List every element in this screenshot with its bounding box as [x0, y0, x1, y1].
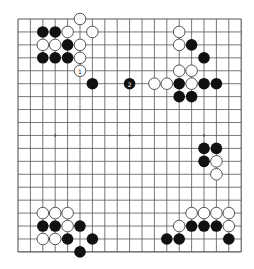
white-stone[interactable] [211, 168, 223, 180]
white-stone[interactable] [223, 220, 235, 232]
white-stone[interactable] [173, 26, 185, 38]
black-stone[interactable] [198, 156, 210, 168]
white-stone[interactable] [211, 156, 223, 168]
black-stone-disc [186, 220, 198, 232]
black-stone[interactable] [62, 233, 74, 245]
black-stone[interactable] [198, 220, 210, 232]
white-stone[interactable] [211, 207, 223, 219]
black-stone[interactable] [49, 52, 61, 64]
black-stone[interactable] [223, 233, 235, 245]
white-stone-disc [37, 233, 49, 245]
black-stone-disc [37, 52, 49, 64]
white-stone-disc [211, 168, 223, 180]
black-stone[interactable] [186, 91, 198, 103]
white-stone-disc [211, 156, 223, 168]
black-stone-disc [198, 220, 210, 232]
black-stone-disc [211, 143, 223, 155]
white-stone-disc [198, 207, 210, 219]
black-stone-disc [173, 233, 185, 245]
white-stone[interactable] [161, 78, 173, 90]
white-stone[interactable] [173, 65, 185, 77]
white-stone-disc [62, 220, 74, 232]
white-stone[interactable] [62, 26, 74, 38]
black-stone-disc [198, 78, 210, 90]
white-stone-disc [74, 13, 86, 25]
white-stone[interactable] [62, 220, 74, 232]
go-board[interactable]: 21 [0, 0, 254, 269]
white-stone-disc [149, 78, 161, 90]
black-stone[interactable] [161, 233, 173, 245]
black-stone[interactable] [37, 220, 49, 232]
white-stone[interactable] [173, 220, 185, 232]
black-stone[interactable] [74, 246, 86, 258]
white-stone[interactable] [87, 26, 99, 38]
black-stone[interactable] [62, 39, 74, 51]
white-stone[interactable] [49, 233, 61, 245]
black-stone[interactable] [49, 26, 61, 38]
move-number-label: 2 [128, 81, 132, 88]
white-stone[interactable] [223, 207, 235, 219]
white-stone[interactable] [173, 39, 185, 51]
star-point [54, 134, 56, 136]
move-number-label: 1 [78, 68, 82, 75]
black-stone-disc [74, 246, 86, 258]
black-stone[interactable] [87, 233, 99, 245]
black-stone[interactable] [198, 78, 210, 90]
white-stone[interactable]: 1 [74, 65, 86, 77]
black-stone-disc [62, 52, 74, 64]
white-stone-disc [186, 207, 198, 219]
black-stone-disc [49, 52, 61, 64]
black-stone-disc [186, 91, 198, 103]
white-stone-disc [223, 207, 235, 219]
white-stone[interactable] [186, 78, 198, 90]
white-stone[interactable] [37, 39, 49, 51]
white-stone[interactable] [74, 13, 86, 25]
black-stone[interactable] [173, 233, 185, 245]
white-stone[interactable] [49, 39, 61, 51]
black-stone[interactable] [211, 220, 223, 232]
black-stone[interactable] [37, 26, 49, 38]
black-stone[interactable] [173, 91, 185, 103]
white-stone[interactable] [186, 65, 198, 77]
white-stone-disc [87, 26, 99, 38]
black-stone[interactable] [186, 39, 198, 51]
white-stone-disc [49, 207, 61, 219]
white-stone[interactable] [37, 233, 49, 245]
white-stone-disc [49, 233, 61, 245]
black-stone-disc [49, 220, 61, 232]
black-stone[interactable] [62, 52, 74, 64]
black-stone[interactable] [198, 52, 210, 64]
white-stone[interactable] [49, 207, 61, 219]
white-stone-disc [74, 52, 86, 64]
black-stone-disc [87, 233, 99, 245]
white-stone[interactable] [198, 207, 210, 219]
black-stone[interactable] [173, 78, 185, 90]
black-stone[interactable] [74, 220, 86, 232]
black-stone-disc [49, 26, 61, 38]
white-stone[interactable] [149, 78, 161, 90]
white-stone[interactable] [74, 39, 86, 51]
white-stone-disc [37, 207, 49, 219]
black-stone-disc [198, 156, 210, 168]
black-stone-disc [223, 233, 235, 245]
black-stone-disc [186, 39, 198, 51]
black-stone-disc [173, 78, 185, 90]
white-stone[interactable] [62, 207, 74, 219]
black-stone[interactable] [211, 143, 223, 155]
black-stone-disc [62, 39, 74, 51]
white-stone-disc [37, 39, 49, 51]
black-stone[interactable] [198, 143, 210, 155]
white-stone[interactable] [37, 207, 49, 219]
black-stone[interactable]: 2 [124, 78, 136, 90]
black-stone[interactable] [87, 78, 99, 90]
black-stone-disc [211, 78, 223, 90]
white-stone[interactable] [186, 207, 198, 219]
black-stone[interactable] [49, 220, 61, 232]
black-stone[interactable] [37, 52, 49, 64]
black-stone[interactable] [211, 78, 223, 90]
white-stone-disc [173, 39, 185, 51]
black-stone[interactable] [186, 220, 198, 232]
white-stone-disc [186, 65, 198, 77]
white-stone-disc [186, 78, 198, 90]
white-stone[interactable] [74, 52, 86, 64]
